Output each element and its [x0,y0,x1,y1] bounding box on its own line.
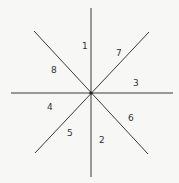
sector-label-7: 7 [116,48,122,58]
sector-label-1: 1 [82,41,88,51]
sector-label-8: 8 [51,65,57,75]
sector-label-5: 5 [67,128,73,138]
sector-label-4: 4 [47,102,53,112]
sector-diagram: 1 7 8 3 4 6 5 2 [0,0,179,183]
center-point [89,91,92,94]
sector-label-6: 6 [128,113,134,123]
sector-label-3: 3 [133,78,139,88]
sector-label-2: 2 [99,135,105,145]
